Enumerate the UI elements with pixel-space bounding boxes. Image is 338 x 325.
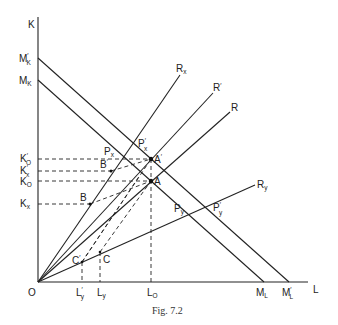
svg-text:ML: ML <box>256 287 268 299</box>
svg-text:B′: B′ <box>100 158 109 170</box>
svg-text:P′y: P′y <box>213 201 223 217</box>
label-py: Py <box>174 203 185 216</box>
svg-text:L′y: L′y <box>76 286 85 301</box>
svg-text:C′: C′ <box>72 254 81 266</box>
point-c <box>99 251 102 254</box>
svg-text:LO: LO <box>147 287 158 299</box>
label-rx: Rx <box>176 63 187 75</box>
label-a: A <box>154 176 161 187</box>
ray-r-prime <box>38 93 213 282</box>
label-c: C <box>103 254 110 265</box>
l-axis-label: L <box>313 284 319 295</box>
svg-text:Py: Py <box>174 203 185 216</box>
bprime-aprime-line <box>111 159 151 171</box>
label-a-prime: A′ <box>154 153 163 165</box>
svg-text:P′x: P′x <box>138 137 148 152</box>
label-ry: Ry <box>257 179 268 192</box>
svg-text:MK: MK <box>19 75 32 87</box>
svg-text:A: A <box>154 176 161 187</box>
label-ml: ML <box>256 287 268 299</box>
label-py-prime: P′y <box>213 201 223 217</box>
point-b <box>89 203 92 206</box>
k-axis-label: K <box>28 19 35 30</box>
label-k0: KO <box>20 176 32 188</box>
svg-text:A′: A′ <box>154 153 163 165</box>
label-r: R <box>231 102 238 113</box>
svg-text:Ly: Ly <box>97 287 107 300</box>
c-a-line <box>100 181 151 252</box>
label-b: B <box>80 192 87 203</box>
label-l0: LO <box>147 287 158 299</box>
label-ml-prime: M′L <box>282 286 294 300</box>
ray-ry <box>38 185 255 282</box>
svg-text:Ry: Ry <box>257 179 268 192</box>
point-b-prime <box>110 170 113 173</box>
svg-text:B: B <box>80 192 87 203</box>
svg-text:KO: KO <box>20 176 32 188</box>
svg-text:R′: R′ <box>213 82 222 93</box>
label-b-prime: B′ <box>100 158 109 170</box>
point-a <box>149 179 153 183</box>
label-c-prime: C′ <box>72 254 81 266</box>
svg-text:M′L: M′L <box>282 286 294 300</box>
label-k0-prime: K′O <box>20 152 31 166</box>
label-r-prime: R′ <box>213 82 222 93</box>
svg-text:Rx: Rx <box>176 63 187 75</box>
svg-text:M′K: M′K <box>19 52 32 66</box>
label-px-prime: P′x <box>138 137 148 152</box>
svg-text:Kx: Kx <box>20 198 31 210</box>
svg-text:K′O: K′O <box>20 152 31 166</box>
label-mk-prime: M′K <box>19 52 32 66</box>
figure-caption: Fig. 7.2 <box>152 305 183 316</box>
label-ly: Ly <box>97 287 107 300</box>
edgeworth-box-diagram: K L O M′K MK K′O K′x KO Kx L′y Ly LO ML … <box>0 0 338 325</box>
label-kx: Kx <box>20 198 31 210</box>
origin-label: O <box>28 287 36 298</box>
label-ly-prime: L′y <box>76 286 85 301</box>
svg-text:R: R <box>231 102 238 113</box>
label-mk: MK <box>19 75 32 87</box>
ray-r <box>38 112 230 282</box>
point-c-prime <box>81 261 84 264</box>
point-a-prime <box>149 157 153 161</box>
svg-text:C: C <box>103 254 110 265</box>
